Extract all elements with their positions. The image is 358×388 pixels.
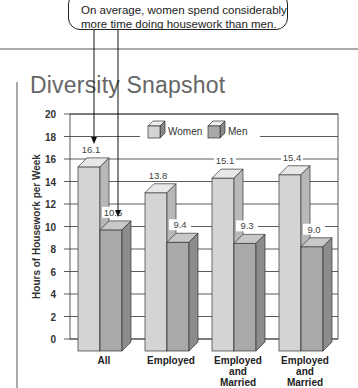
bar-men <box>301 247 323 351</box>
x-category-label: All <box>98 355 111 366</box>
y-tick-label: 8 <box>50 244 56 255</box>
value-label: 15.4 <box>283 152 302 163</box>
y-axis-label: Hours of Housework per Week <box>31 154 42 299</box>
value-label: 13.8 <box>149 170 168 181</box>
bar-women <box>145 193 167 351</box>
y-tick-label: 0 <box>50 334 56 345</box>
x-category-label: and <box>229 366 247 377</box>
y-tick-label: 16 <box>45 154 57 165</box>
y-tick-label: 4 <box>50 289 56 300</box>
x-category-label: Married <box>220 377 256 388</box>
value-label: 16.1 <box>82 144 101 155</box>
bar-men <box>167 242 189 351</box>
x-category-label: Employed <box>281 355 329 366</box>
bar-side <box>256 234 265 351</box>
bar-women <box>212 178 234 351</box>
value-label: 15.1 <box>216 155 235 166</box>
legend-swatch <box>208 126 220 138</box>
x-category-label: and <box>296 366 314 377</box>
x-category-label: Employed <box>147 355 195 366</box>
bar-men <box>234 243 256 351</box>
bar-women <box>78 167 100 351</box>
bar-side <box>323 238 332 351</box>
y-tick-label: 6 <box>50 267 56 278</box>
y-tick-label: 12 <box>45 199 57 210</box>
bar-side <box>189 233 198 351</box>
bar-side <box>122 221 131 351</box>
y-tick-label: 14 <box>45 177 57 188</box>
value-label: 9.4 <box>173 219 186 230</box>
bar-chart: 02468101214161820Hours of Housework per … <box>0 0 358 388</box>
legend-label: Men <box>228 126 247 137</box>
value-label: 9.3 <box>240 220 253 231</box>
x-category-label: Married <box>287 377 323 388</box>
value-label: 9.0 <box>307 224 320 235</box>
legend-label: Women <box>168 126 202 137</box>
bar-women <box>279 175 301 351</box>
y-tick-label: 18 <box>45 132 57 143</box>
y-tick-label: 10 <box>45 222 57 233</box>
bar-men <box>100 230 122 351</box>
y-tick-label: 20 <box>45 109 57 120</box>
x-category-label: Employed <box>214 355 262 366</box>
legend-swatch <box>148 126 160 138</box>
y-tick-label: 2 <box>50 312 56 323</box>
